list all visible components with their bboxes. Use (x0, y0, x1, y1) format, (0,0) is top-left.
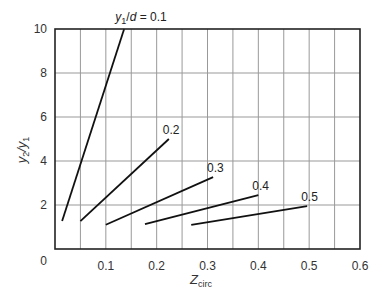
x-tick-label: 0.1 (97, 259, 114, 273)
x-tick-label: 0.4 (250, 259, 267, 273)
x-tick-label: 0.6 (352, 259, 369, 273)
y-tick-label: 8 (40, 66, 47, 80)
series-label-0.4: 0.4 (252, 179, 269, 193)
y-tick-label: 2 (40, 198, 47, 212)
y-tick-label: 6 (40, 110, 47, 124)
y-tick-label: 0 (40, 254, 47, 268)
svg-text:y2/y1: y2/y1 (14, 137, 31, 165)
series-lines (62, 29, 307, 225)
x-tick-label: 0.5 (301, 259, 318, 273)
series-line-0.1 (62, 29, 124, 221)
y-axis-label: y2/y1 (14, 137, 31, 165)
x-tick-label: 0.3 (199, 259, 216, 273)
series-line-0.3 (106, 177, 213, 225)
series-label-0.2: 0.2 (163, 123, 180, 137)
x-axis-ticks: 0.10.20.30.40.50.6 (97, 259, 368, 273)
x-tick-label: 0.2 (148, 259, 165, 273)
series-line-0.2 (80, 139, 168, 221)
series-label-0.3: 0.3 (207, 161, 224, 175)
x-axis-label: Zcirc (189, 272, 212, 289)
series-label-0.5: 0.5 (301, 190, 318, 204)
series-label-0.1: y1/d = 0.1 (114, 10, 167, 26)
y-axis-ticks: 0246810 (34, 22, 48, 268)
series-line-0.5 (191, 206, 307, 225)
y-tick-label: 10 (34, 22, 48, 36)
y-tick-label: 4 (40, 154, 47, 168)
series-labels: y1/d = 0.10.20.30.40.5 (114, 10, 318, 204)
chart: 0.10.20.30.40.50.6 0246810 y1/d = 0.10.2… (0, 0, 378, 299)
grid-lines (55, 29, 360, 249)
